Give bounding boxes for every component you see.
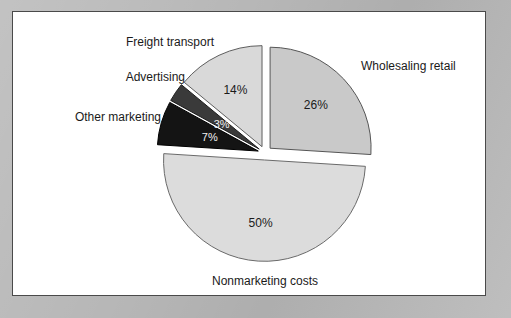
pie-slice-value-label: 3% xyxy=(214,118,230,130)
pie-category-label: Wholesaling retail xyxy=(361,59,456,73)
pie-slice-value-label: 14% xyxy=(223,83,247,97)
pie-category-label: Nonmarketing costs xyxy=(212,274,318,288)
pie-slice-value-label: 7% xyxy=(202,131,218,143)
pie-slice-value-label: 50% xyxy=(249,216,273,230)
pie-slice[interactable] xyxy=(164,154,366,262)
pie-chart: 26%50%7%3%14% Freight transportAdvertisi… xyxy=(13,12,485,295)
plot-panel: 26%50%7%3%14% Freight transportAdvertisi… xyxy=(12,11,486,296)
pie-category-label: Freight transport xyxy=(126,35,215,49)
pie-slice-value-label: 26% xyxy=(304,98,328,112)
pie-category-label: Advertising xyxy=(126,70,185,84)
pie-category-label: Other marketing xyxy=(75,110,161,124)
figure-root: 26%50%7%3%14% Freight transportAdvertisi… xyxy=(0,0,511,318)
